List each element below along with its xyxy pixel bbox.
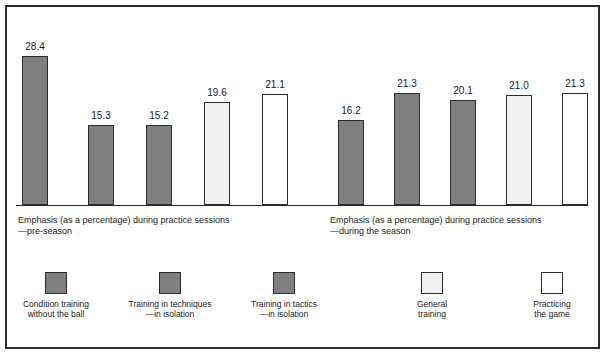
bar-value-label: 20.1 xyxy=(453,85,472,96)
bar xyxy=(562,93,588,205)
bar-value-label: 21.3 xyxy=(397,78,416,89)
chart-baseline xyxy=(16,205,588,206)
legend-item: General training xyxy=(380,272,484,319)
legend-swatch xyxy=(541,272,563,294)
bar xyxy=(338,120,364,205)
legend-label: Condition training without the ball xyxy=(4,299,108,319)
bar-value-label: 15.3 xyxy=(91,110,110,121)
bar xyxy=(146,125,172,205)
bar xyxy=(450,100,476,205)
legend-swatch xyxy=(159,272,181,294)
bar xyxy=(262,94,288,205)
bar-value-label: 19.6 xyxy=(207,87,226,98)
legend-label: Training in tactics —in isolation xyxy=(232,299,336,319)
bar xyxy=(204,102,230,205)
legend-item: Practicing the game xyxy=(500,272,604,319)
legend-item: Training in tactics —in isolation xyxy=(232,272,336,319)
legend-swatch xyxy=(421,272,443,294)
bar-value-label: 28.4 xyxy=(25,41,44,52)
group-caption-during-season: Emphasis (as a percentage) during practi… xyxy=(330,215,600,237)
bar-value-label: 15.2 xyxy=(149,110,168,121)
bar xyxy=(506,95,532,205)
bar-value-label: 21.1 xyxy=(265,79,284,90)
bar xyxy=(394,93,420,205)
bar-value-label: 21.0 xyxy=(509,80,528,91)
legend-swatch xyxy=(273,272,295,294)
bar-chart: 28.415.315.219.621.116.221.320.121.021.3… xyxy=(0,0,608,356)
legend-item: Training in techniques —in isolation xyxy=(118,272,222,319)
bar-value-label: 16.2 xyxy=(341,105,360,116)
legend-swatch xyxy=(45,272,67,294)
bar xyxy=(22,56,48,205)
legend-label: General training xyxy=(380,299,484,319)
legend-item: Condition training without the ball xyxy=(4,272,108,319)
bar xyxy=(88,125,114,205)
group-caption-pre-season: Emphasis (as a percentage) during practi… xyxy=(18,215,288,237)
legend-label: Training in techniques —in isolation xyxy=(118,299,222,319)
bar-value-label: 21.3 xyxy=(565,78,584,89)
legend-label: Practicing the game xyxy=(500,299,604,319)
